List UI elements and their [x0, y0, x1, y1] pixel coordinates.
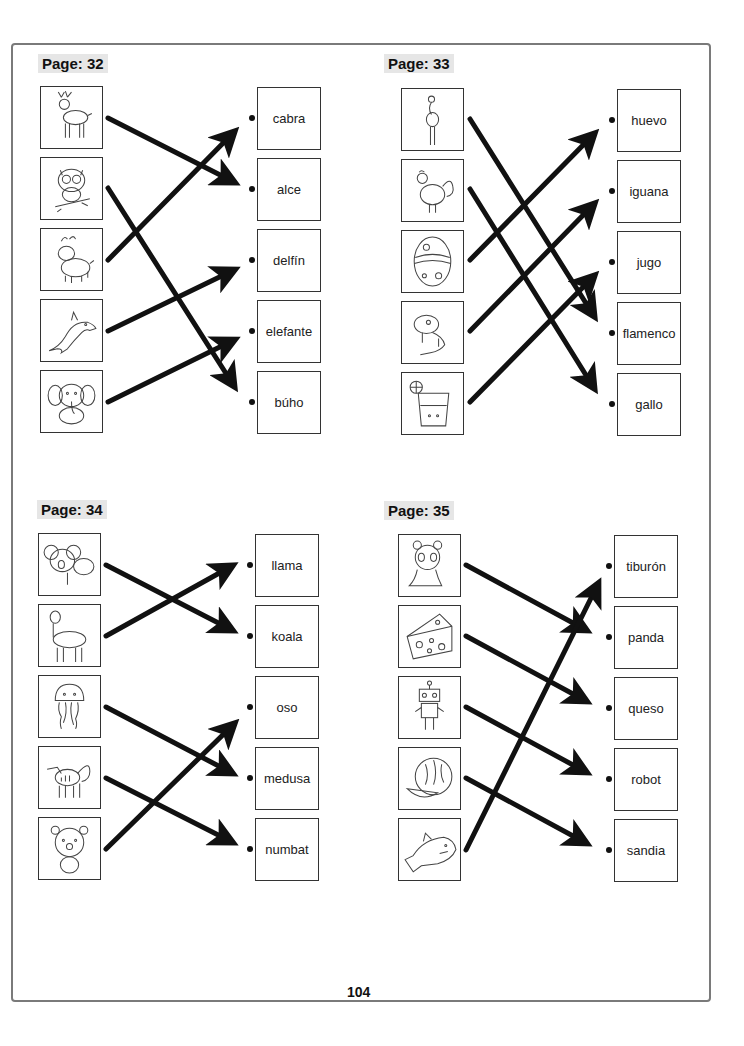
match-dot[interactable] — [609, 401, 615, 407]
iguana-icon — [401, 301, 464, 364]
word-box-oso[interactable]: oso — [255, 676, 319, 739]
egg-icon — [401, 230, 464, 293]
match-dot[interactable] — [606, 776, 612, 782]
word-box-cabra[interactable]: cabra — [257, 87, 321, 150]
match-dot[interactable] — [247, 562, 253, 568]
match-dot[interactable] — [249, 257, 255, 263]
match-dot[interactable] — [609, 188, 615, 194]
bear-icon — [38, 817, 101, 880]
match-dot[interactable] — [249, 328, 255, 334]
shark-icon — [398, 818, 461, 881]
page-frame — [11, 43, 711, 1002]
word-box-llama[interactable]: llama — [255, 534, 319, 597]
juice-icon — [401, 372, 464, 435]
match-dot[interactable] — [249, 115, 255, 121]
word-box-medusa[interactable]: medusa — [255, 747, 319, 810]
word-box-gallo[interactable]: gallo — [617, 373, 681, 436]
match-dot[interactable] — [247, 846, 253, 852]
section-label-page-35: Page: 35 — [384, 501, 454, 520]
deer-icon — [40, 86, 103, 149]
robot-icon — [398, 676, 461, 739]
word-box-queso[interactable]: queso — [614, 677, 678, 740]
jellyfish-icon — [38, 675, 101, 738]
section-label-page-33: Page: 33 — [384, 54, 454, 73]
dolphin-icon — [40, 299, 103, 362]
word-box-iguana[interactable]: iguana — [617, 160, 681, 223]
cheese-icon — [398, 605, 461, 668]
elephant-icon — [40, 370, 103, 433]
match-dot[interactable] — [247, 704, 253, 710]
word-box-flamenco[interactable]: flamenco — [617, 302, 681, 365]
match-dot[interactable] — [249, 186, 255, 192]
section-label-page-34: Page: 34 — [37, 500, 107, 519]
match-dot[interactable] — [606, 847, 612, 853]
word-box-jugo[interactable]: jugo — [617, 231, 681, 294]
word-box-huevo[interactable]: huevo — [617, 89, 681, 152]
goat-icon — [40, 228, 103, 291]
owl-icon — [40, 157, 103, 220]
panda-icon — [398, 534, 461, 597]
word-box-tiburon[interactable]: tiburón — [614, 535, 678, 598]
word-box-buho[interactable]: búho — [257, 371, 321, 434]
match-dot[interactable] — [609, 330, 615, 336]
word-box-koala[interactable]: koala — [255, 605, 319, 668]
match-dot[interactable] — [606, 705, 612, 711]
page-number: 104 — [347, 984, 370, 1000]
match-dot[interactable] — [609, 117, 615, 123]
match-dot[interactable] — [606, 634, 612, 640]
koala-icon — [38, 533, 101, 596]
word-box-panda[interactable]: panda — [614, 606, 678, 669]
llama-icon — [38, 604, 101, 667]
watermelon-icon — [398, 747, 461, 810]
word-box-elefante[interactable]: elefante — [257, 300, 321, 363]
match-dot[interactable] — [609, 259, 615, 265]
match-dot[interactable] — [606, 563, 612, 569]
flamingo-icon — [401, 88, 464, 151]
match-dot[interactable] — [247, 775, 253, 781]
word-box-delfin[interactable]: delfín — [257, 229, 321, 292]
match-dot[interactable] — [249, 399, 255, 405]
word-box-alce[interactable]: alce — [257, 158, 321, 221]
word-box-sandia[interactable]: sandia — [614, 819, 678, 882]
section-label-page-32: Page: 32 — [38, 54, 108, 73]
numbat-icon — [38, 746, 101, 809]
match-dot[interactable] — [247, 633, 253, 639]
rooster-icon — [401, 159, 464, 222]
word-box-numbat[interactable]: numbat — [255, 818, 319, 881]
word-box-robot[interactable]: robot — [614, 748, 678, 811]
